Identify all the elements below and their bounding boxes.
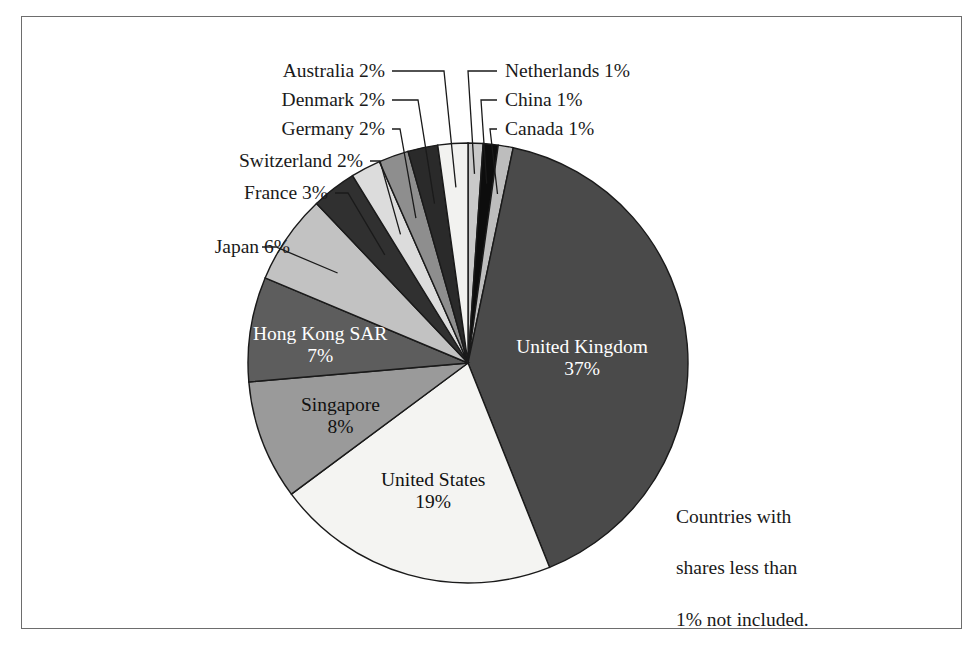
callout-label-canada: Canada 1%: [505, 118, 594, 140]
pie-chart: United Kingdom37%United States19%Singapo…: [0, 0, 976, 648]
callout-label-netherlands: Netherlands 1%: [505, 60, 630, 82]
callout-label-denmark: Denmark 2%: [170, 89, 385, 111]
chart-note-line-1: Countries with: [676, 504, 809, 530]
chart-canvas: United Kingdom37%United States19%Singapo…: [0, 0, 976, 648]
callout-label-germany: Germany 2%: [160, 118, 385, 140]
callout-label-france: France 3%: [128, 182, 328, 204]
chart-note: Countries with shares less than 1% not i…: [676, 478, 809, 648]
callout-label-china: China 1%: [505, 89, 582, 111]
callout-label-switzerland: Switzerland 2%: [128, 150, 363, 172]
callout-label-japan: Japan 6%: [110, 236, 290, 258]
chart-note-line-3: 1% not included.: [676, 607, 809, 633]
callout-label-australia: Australia 2%: [170, 60, 385, 82]
chart-note-line-2: shares less than: [676, 555, 809, 581]
